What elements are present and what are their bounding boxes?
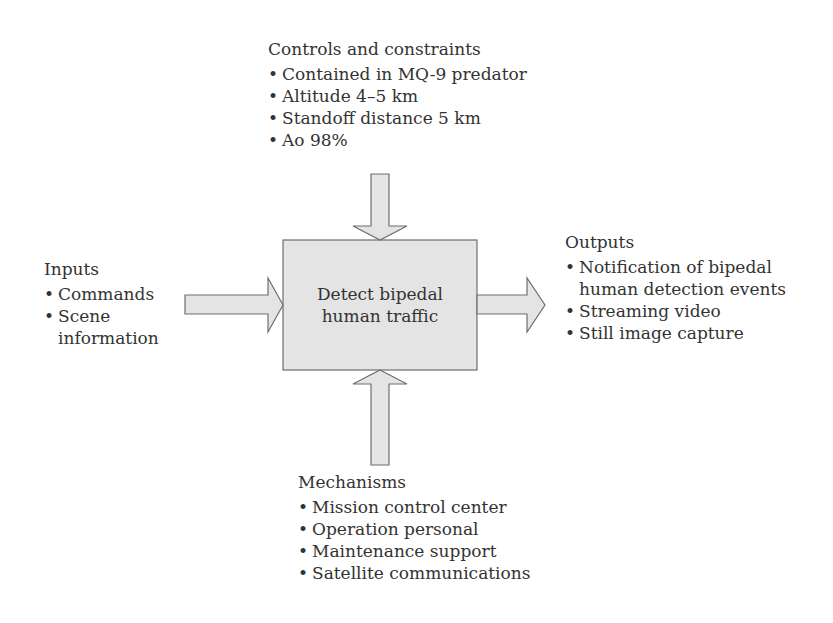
controls-group: Controls and constraints Contained in MQ… [268,38,527,151]
outputs-item: Notification of bipedal human detection … [565,256,789,300]
control-arrow-icon [353,174,407,240]
inputs-list: Commands Scene information [44,283,184,349]
mechanisms-title: Mechanisms [298,471,530,493]
controls-item: Ao 98% [268,129,527,151]
controls-item: Standoff distance 5 km [268,107,527,129]
mechanisms-item: Satellite communications [298,562,530,584]
outputs-list: Notification of bipedal human detection … [565,256,805,344]
mechanism-arrow-icon [353,370,407,465]
inputs-item: Scene information [44,305,158,349]
input-arrow-icon [185,278,283,332]
outputs-item: Streaming video [565,300,805,322]
mechanisms-list: Mission control center Operation persona… [298,496,530,584]
controls-list: Contained in MQ-9 predator Altitude 4–5 … [268,63,527,151]
mechanisms-item: Mission control center [298,496,530,518]
outputs-group: Outputs Notification of bipedal human de… [565,231,805,344]
output-arrow-icon [477,278,545,332]
mechanisms-item: Maintenance support [298,540,530,562]
mechanisms-group: Mechanisms Mission control center Operat… [298,471,530,584]
inputs-item: Commands [44,283,184,305]
outputs-item: Still image capture [565,322,805,344]
controls-item: Contained in MQ-9 predator [268,63,527,85]
inputs-group: Inputs Commands Scene information [44,258,184,349]
outputs-title: Outputs [565,231,805,253]
mechanisms-item: Operation personal [298,518,530,540]
idef0-diagram: Detect bipedal human traffic Controls an… [0,0,833,623]
inputs-title: Inputs [44,258,184,280]
controls-title: Controls and constraints [268,38,527,60]
process-label: Detect bipedal human traffic [283,240,477,370]
controls-item: Altitude 4–5 km [268,85,527,107]
